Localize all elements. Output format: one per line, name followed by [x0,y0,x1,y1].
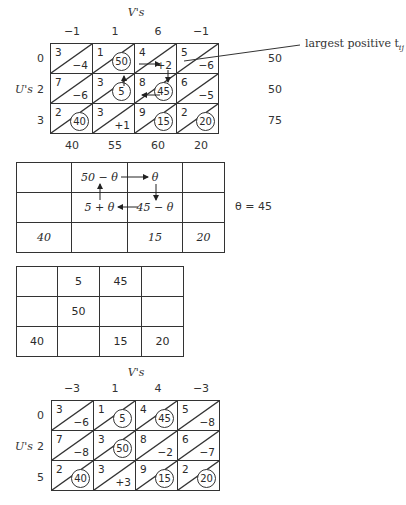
tableau-cell: 7−8 [52,431,94,461]
table-cell: 40 [17,327,58,357]
u-value: 0 [37,409,44,422]
tableau-cell: 5−8 [178,401,220,431]
cell-allocation-circled: 15 [155,469,174,488]
tableau-cell: 240 [52,461,94,491]
tableau-row: 2403+3915220 [52,461,220,491]
cell-reduced-cost: −8 [200,416,215,428]
theta-arrows-overlay [0,155,260,255]
table-cell [100,297,142,327]
v-value: −3 [193,382,209,395]
table-cell [17,267,58,297]
cell-allocation-circled: 5 [113,409,132,428]
cell-cost: 3 [56,403,63,415]
cell-cost: 3 [98,463,105,475]
cell-value: 5 [75,275,82,288]
tableau-cell: 350 [94,431,136,461]
table-cell [142,267,184,297]
table-cell [58,327,100,357]
cell-value: 20 [156,335,170,348]
tableau-cell: 6−7 [178,431,220,461]
cycle-arrows-overlay [0,0,406,160]
cell-reduced-cost: −2 [158,446,173,458]
table-row: 545 [17,267,184,297]
annotation-largest-positive: largest positive tij [305,37,404,52]
tableau-cell: 220 [178,461,220,491]
table-cell: 50 [58,297,100,327]
table-cell: 20 [142,327,184,357]
table-cell: 5 [58,267,100,297]
cell-value: 40 [30,335,44,348]
table-cell: 15 [100,327,142,357]
theta-value-note: θ = 45 [235,200,272,213]
table-row: 401520 [17,327,184,357]
table-cell: 45 [100,267,142,297]
v-value: −3 [64,382,80,395]
cell-cost: 1 [98,403,105,415]
tableau-row: 7−83508−26−7 [52,431,220,461]
annotation-subscript: ij [399,43,404,52]
cell-cost: 8 [140,433,147,445]
cell-reduced-cost: −7 [200,446,215,458]
cell-allocation-circled: 50 [113,439,132,458]
cell-allocation-circled: 40 [71,469,90,488]
v-value: 1 [112,382,119,395]
cell-value: 50 [72,305,86,318]
cell-value: 45 [114,275,128,288]
cell-allocation-circled: 20 [197,469,216,488]
annotation-text: largest positive t [305,37,399,50]
u-header-label: U's [15,440,33,453]
u-value: 2 [37,440,44,453]
tableau-cell: 445 [136,401,178,431]
cell-cost: 9 [140,463,147,475]
table-cell [17,297,58,327]
table-row: 50 [17,297,184,327]
tableau-cell: 15 [94,401,136,431]
cell-cost: 2 [182,463,189,475]
cell-value: 15 [114,335,128,348]
tableau-cell: 3+3 [94,461,136,491]
cell-reduced-cost: −8 [74,446,89,458]
tableau-2-grid: 3−6154455−87−83508−26−72403+3915220 [51,400,220,491]
cell-cost: 7 [56,433,63,445]
tableau-cell: 3−6 [52,401,94,431]
tableau-row: 3−6154455−8 [52,401,220,431]
cell-cost: 5 [182,403,189,415]
tableau-cell: 8−2 [136,431,178,461]
v-header-label: V's [128,366,145,379]
tableau-cell: 915 [136,461,178,491]
u-value: 5 [37,471,44,484]
new-allocation-table: 54550401520 [16,266,184,357]
cell-cost: 2 [56,463,63,475]
cell-cost: 6 [182,433,189,445]
cell-cost: 4 [140,403,147,415]
cell-cost: 3 [98,433,105,445]
cell-reduced-cost: +3 [116,476,131,488]
cell-allocation-circled: 45 [155,409,174,428]
table-cell [142,297,184,327]
v-value: 4 [155,382,162,395]
cell-reduced-cost: −6 [74,416,89,428]
